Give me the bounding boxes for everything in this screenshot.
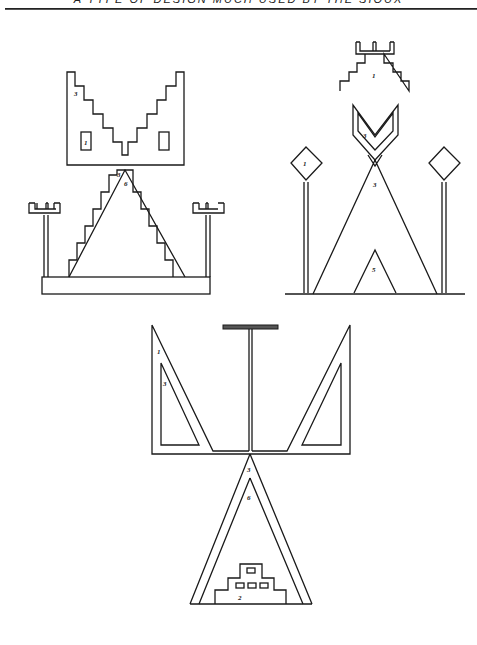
t-crossbar xyxy=(223,325,278,329)
label-3: 3 xyxy=(372,181,377,189)
label-3: 3 xyxy=(246,466,251,474)
design-plate: 3 1 3 6 1 3 3 5 1 xyxy=(0,0,477,645)
left-diamond-pole xyxy=(291,147,322,293)
frame-outline xyxy=(152,325,350,454)
label-1: 1 xyxy=(372,72,376,80)
label-5: 5 xyxy=(372,266,376,274)
figure-top-right: 1 3 3 5 1 xyxy=(285,42,465,294)
right-fork-pole xyxy=(193,203,224,277)
label-2: 2 xyxy=(237,594,242,602)
left-inner-triangle xyxy=(161,363,199,445)
right-inner-triangle xyxy=(302,363,341,445)
fork-crown xyxy=(356,42,394,54)
label-6: 6 xyxy=(124,180,128,188)
right-diamond-pole xyxy=(429,147,460,293)
stepped-v-box: 3 1 xyxy=(67,72,184,165)
label-6: 6 xyxy=(247,494,251,502)
label-3: 3 xyxy=(362,132,367,140)
label-3: 3 xyxy=(162,380,167,388)
figure-top-left: 3 1 3 6 xyxy=(29,72,224,294)
label-1: 1 xyxy=(157,348,161,356)
stepped-triangle: 3 6 xyxy=(69,170,185,277)
t-stem xyxy=(249,329,252,451)
label-1: 1 xyxy=(303,160,307,168)
label-1: 1 xyxy=(84,139,88,147)
stepped-base xyxy=(215,564,286,604)
base-bar xyxy=(42,277,210,294)
figure-bottom: 1 3 3 6 2 xyxy=(152,325,350,604)
label-3: 3 xyxy=(116,171,121,179)
left-fork-pole xyxy=(29,203,60,277)
label-3: 3 xyxy=(73,90,78,98)
